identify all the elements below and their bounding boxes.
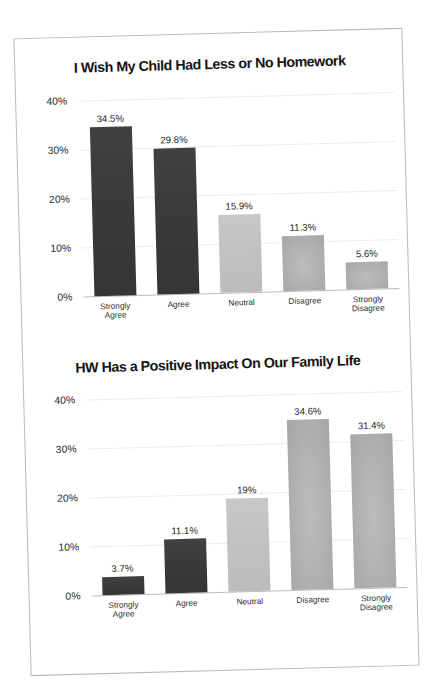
bar[interactable] [282,235,325,291]
plot-area: 0%10%20%30%40%3.7%Strongly Agree11.1%Agr… [86,391,407,595]
bar-value-label: 5.6% [356,247,378,259]
bar-group[interactable]: 15.9%Neutral [218,214,262,293]
bar-group[interactable]: 19%Neutral [226,498,271,592]
bar-chart-1: I Wish My Child Had Less or No Homework0… [14,29,403,40]
y-axis-tick-label: 40% [46,95,67,107]
bar-group[interactable]: 11.1%Agree [164,538,207,593]
y-axis-tick-label: 20% [57,492,78,504]
bar[interactable] [153,147,199,294]
bar-value-label: 29.8% [160,134,187,146]
bar-series: 3.7%Strongly Agree11.1%Agree19%Neutral34… [86,391,407,595]
x-axis-category-label: Strongly Disagree [337,593,415,614]
page-content: I Wish My Child Had Less or No Homework0… [14,29,420,677]
bar[interactable] [164,538,207,593]
bar[interactable] [346,261,389,290]
bar[interactable] [351,433,397,588]
bar-group[interactable]: 29.8%Agree [153,147,199,294]
x-axis-category-label: Strongly Disagree [329,294,407,315]
bar-group[interactable]: 3.7%Strongly Agree [102,576,144,595]
bar-group[interactable]: 34.6%Disagree [287,419,334,590]
bar-chart-2: HW Has a Positive Impact On Our Family L… [14,29,403,40]
bar-value-label: 34.6% [294,406,321,418]
bar[interactable] [287,419,334,590]
bar-group[interactable]: 5.6%Strongly Disagree [346,261,389,290]
y-axis-tick-label: 10% [50,242,71,254]
y-axis-tick-label: 0% [65,590,80,601]
y-axis-tick-label: 30% [48,144,69,156]
y-axis-tick-label: 20% [49,193,70,205]
y-axis-tick-label: 30% [56,443,77,455]
y-axis-tick-label: 10% [58,541,79,553]
bar[interactable] [226,498,271,592]
chart-title: HW Has a Positive Impact On Our Family L… [23,351,412,378]
bar-value-label: 31.4% [358,420,385,432]
bar-value-label: 3.7% [111,562,133,574]
bar-group[interactable]: 11.3%Disagree [282,235,325,291]
y-axis-tick-label: 0% [57,291,72,302]
bar-group[interactable]: 31.4%Strongly Disagree [351,433,397,588]
plot-area: 0%10%20%30%40%34.5%Strongly Agree29.8%Ag… [78,92,399,296]
bar-value-label: 15.9% [225,200,252,212]
bar-value-label: 34.5% [96,112,123,124]
bar-value-label: 19% [237,484,256,496]
bar-series: 34.5%Strongly Agree29.8%Agree15.9%Neutra… [78,92,399,296]
y-axis-tick-label: 40% [54,394,75,406]
chart-title: I Wish My Child Had Less or No Homework [15,51,404,78]
bar[interactable] [102,576,144,595]
bar-value-label: 11.1% [171,524,198,536]
bar[interactable] [218,214,262,293]
scanned-page-sheet: I Wish My Child Had Less or No Homework0… [13,28,419,676]
bar-group[interactable]: 34.5%Strongly Agree [89,126,136,296]
bar-value-label: 11.3% [289,221,316,233]
bar[interactable] [89,126,136,296]
